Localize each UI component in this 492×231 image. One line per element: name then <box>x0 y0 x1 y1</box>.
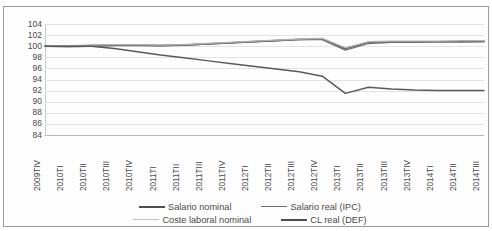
y-tick-label: 104 <box>8 20 42 28</box>
y-tick-label: 90 <box>8 97 42 105</box>
x-tick-label: 2013TII <box>356 163 365 191</box>
y-tick-label: 102 <box>8 31 42 39</box>
y-tick-label: 100 <box>8 42 42 50</box>
series-line <box>45 46 484 93</box>
legend-item[interactable]: Salario real (IPC) <box>261 202 360 212</box>
x-tick-label: 2013TIII <box>380 161 389 191</box>
x-tick-label: 2011TI <box>149 166 158 191</box>
legend-label: CL real (DEF) <box>310 215 366 225</box>
y-tick-label: 88 <box>8 108 42 116</box>
legend-row: Salario nominalSalario real (IPC) <box>139 202 361 212</box>
x-tick-label: 2012TII <box>264 163 273 191</box>
x-tick-label: 2012TI <box>241 166 250 192</box>
plot-area <box>45 24 484 135</box>
legend-swatch-icon <box>281 219 307 221</box>
x-tick-label: 2014TI <box>426 166 435 192</box>
legend-item[interactable]: Salario nominal <box>139 202 231 212</box>
x-axis-tick-labels: 2009TIV2010TI2010TII2010TIII2010TIV2011T… <box>45 137 484 191</box>
legend-swatch-icon <box>139 206 165 208</box>
x-tick-label: 2010TI <box>56 166 65 192</box>
x-tick-label: 2010TIII <box>102 161 111 191</box>
legend-item[interactable]: CL real (DEF) <box>281 215 366 225</box>
x-tick-label: 2012TIV <box>310 160 319 191</box>
x-tick-label: 2011TII <box>172 164 181 191</box>
x-tick-label: 2014TII <box>449 163 458 191</box>
y-axis-tick-labels: 1041021009896949290888684 <box>6 24 42 135</box>
legend-label: Salario nominal <box>168 202 231 212</box>
y-tick-label: 98 <box>8 53 42 61</box>
series-line <box>45 38 484 47</box>
x-tick-label: 2013TI <box>333 166 342 192</box>
x-axis-line <box>45 135 484 136</box>
x-tick-label: 2010TII <box>79 163 88 191</box>
y-tick-label: 96 <box>8 64 42 72</box>
x-tick-label: 2014TIII <box>472 161 481 191</box>
legend-item[interactable]: Coste laboral nominal <box>133 215 251 225</box>
x-tick-label: 2012TIII <box>287 161 296 191</box>
x-tick-label: 2009TIV <box>33 160 42 191</box>
legend-label: Coste laboral nominal <box>162 215 251 225</box>
legend-row: Coste laboral nominalCL real (DEF) <box>133 215 366 225</box>
x-tick-label: 2013TIV <box>403 160 412 191</box>
legend-swatch-icon <box>133 219 159 220</box>
y-tick-label: 86 <box>8 119 42 127</box>
series-lines <box>45 24 484 135</box>
chart-screenshot: 1041021009896949290888684 2009TIV2010TI2… <box>0 0 492 231</box>
legend-label: Salario real (IPC) <box>290 202 360 212</box>
x-tick-label: 2011TIII <box>195 162 204 191</box>
chart-legend: Salario nominalSalario real (IPC)Coste l… <box>7 193 492 231</box>
y-tick-label: 84 <box>8 131 42 139</box>
legend-swatch-icon <box>261 206 287 207</box>
y-tick-label: 94 <box>8 75 42 83</box>
x-tick-label: 2011TIV <box>218 161 227 191</box>
x-tick-label: 2010TIV <box>125 160 134 191</box>
chart-frame: 1041021009896949290888684 2009TIV2010TI2… <box>3 6 489 227</box>
y-tick-label: 92 <box>8 86 42 94</box>
